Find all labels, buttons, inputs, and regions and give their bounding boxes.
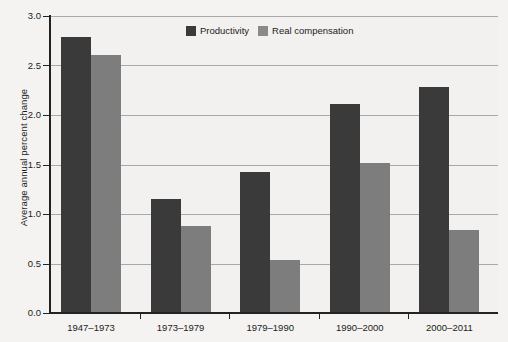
bar xyxy=(61,37,91,313)
bar xyxy=(360,163,390,313)
legend-label: Productivity xyxy=(200,25,249,36)
x-tick-mark xyxy=(408,313,409,319)
legend-swatch xyxy=(186,26,196,36)
x-axis-line xyxy=(49,312,498,314)
bar xyxy=(270,260,300,313)
x-category-label: 2000–2011 xyxy=(426,322,473,333)
y-tick-label: 0.5 xyxy=(0,259,41,269)
y-axis-line xyxy=(49,15,51,314)
bar-chart: Average annual percent change 0.00.51.01… xyxy=(0,0,508,342)
bar xyxy=(240,172,270,313)
x-tick-mark xyxy=(319,313,320,319)
y-tick-label: 1.5 xyxy=(0,160,41,170)
y-tick-label: 3.0 xyxy=(0,11,41,21)
legend-entry: Productivity xyxy=(186,25,249,36)
bar xyxy=(449,230,479,313)
x-tick-mark xyxy=(140,313,141,319)
y-tick-label: 1.0 xyxy=(0,209,41,219)
bar xyxy=(151,199,181,313)
y-tick-label: 0.0 xyxy=(0,308,41,318)
x-category-label: 1947–1973 xyxy=(67,322,115,333)
x-tick-mark xyxy=(229,313,230,319)
gridline xyxy=(50,16,498,17)
x-category-label: 1990–2000 xyxy=(336,322,384,333)
bar xyxy=(91,55,121,313)
x-category-label: 1973–1979 xyxy=(157,322,205,333)
legend-entry: Real compensation xyxy=(258,25,353,36)
y-tick-label: 2.0 xyxy=(0,110,41,120)
bar xyxy=(181,226,211,313)
chart-legend: ProductivityReal compensation xyxy=(186,25,353,36)
legend-label: Real compensation xyxy=(272,25,353,36)
bar xyxy=(330,104,360,313)
y-axis-title: Average annual percent change xyxy=(18,43,29,273)
y-tick-label: 2.5 xyxy=(0,61,41,71)
legend-swatch xyxy=(258,26,268,36)
bar xyxy=(419,87,449,313)
x-category-label: 1979–1990 xyxy=(246,322,294,333)
